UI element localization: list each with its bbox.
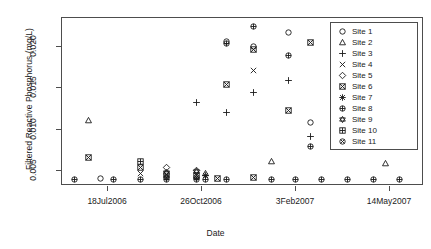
data-point [201, 175, 210, 184]
y-axis-tick-label: 0.010 [28, 110, 38, 148]
data-point [192, 173, 201, 182]
data-point [291, 175, 300, 184]
data-point [317, 175, 326, 184]
data-point [284, 106, 293, 115]
y-axis-tick-label: 0.005 [28, 151, 38, 189]
data-point [222, 175, 231, 184]
legend-label: Site 8 [349, 104, 372, 113]
data-point [84, 116, 93, 125]
x-axis-tick-label: 14May2007 [349, 196, 429, 206]
data-point [222, 80, 231, 89]
legend-item: Site 9 [331, 114, 417, 125]
legend-symbol [336, 92, 349, 103]
legend-symbol [336, 136, 349, 147]
x-axis-tick [295, 186, 296, 191]
data-point [249, 88, 258, 97]
y-axis-tick [56, 170, 61, 171]
x-axis-tick [389, 186, 390, 191]
data-point [249, 173, 258, 182]
data-point [306, 118, 315, 127]
data-point [369, 175, 378, 184]
data-point [249, 66, 258, 75]
data-point [136, 175, 145, 184]
legend-label: Site 1 [349, 27, 372, 36]
legend-symbol [336, 70, 349, 81]
legend-symbol [336, 48, 349, 59]
y-axis-tick-label-wrap: 0.020 [14, 41, 52, 51]
legend-item: Site 6 [331, 81, 417, 92]
plot-root: Filtered Reactive Phosphorus (mg/L) 0.00… [0, 0, 431, 249]
x-axis-tick [107, 186, 108, 191]
y-axis-tick-label-wrap: 0.015 [14, 82, 52, 92]
data-point [96, 174, 105, 183]
legend-label: Site 2 [349, 38, 372, 47]
data-point [381, 159, 390, 168]
y-axis-tick [56, 87, 61, 88]
legend-label: Site 6 [349, 82, 372, 91]
legend-item: Site 3 [331, 48, 417, 59]
y-axis-tick-label: 0.020 [28, 27, 38, 65]
data-point [109, 175, 118, 184]
legend-symbol [336, 114, 349, 125]
y-axis-tick [56, 46, 61, 47]
legend-label: Site 4 [349, 60, 372, 69]
legend-symbol [336, 81, 349, 92]
legend-symbol [336, 59, 349, 70]
legend: Site 1Site 2 Site 3 Site 4Site 5 Site 6 … [330, 22, 418, 150]
data-point [395, 175, 404, 184]
x-axis-title: Date [0, 228, 431, 238]
data-point [222, 39, 231, 48]
data-point [249, 22, 258, 31]
data-point [162, 173, 171, 182]
data-point [192, 98, 201, 107]
data-point [267, 157, 276, 166]
legend-symbol [336, 26, 349, 37]
x-axis-tick-label: 3Feb2007 [255, 196, 335, 206]
data-point [222, 108, 231, 117]
legend-item: Site 1 [331, 26, 417, 37]
data-point [343, 175, 352, 184]
legend-label: Site 5 [349, 71, 372, 80]
data-point [306, 38, 315, 47]
legend-label: Site 3 [349, 49, 372, 58]
y-axis-tick-label-wrap: 0.005 [14, 165, 52, 175]
legend-item: Site 5 [331, 70, 417, 81]
legend-label: Site 7 [349, 93, 372, 102]
data-point [70, 175, 79, 184]
data-point [213, 174, 222, 183]
y-axis-tick-label: 0.015 [28, 68, 38, 106]
legend-item: Site 8 [331, 103, 417, 114]
data-point [136, 157, 145, 166]
legend-item: Site 7 [331, 92, 417, 103]
legend-item: Site 4 [331, 59, 417, 70]
data-point [306, 132, 315, 141]
legend-symbol [336, 103, 349, 114]
x-axis-tick-label: 18Jul2006 [67, 196, 147, 206]
data-point [284, 51, 293, 60]
legend-label: Site 10 [349, 126, 377, 135]
legend-symbol [336, 37, 349, 48]
data-point [84, 153, 93, 162]
legend-item: Site 11 [331, 136, 417, 147]
legend-item: Site 10 [331, 125, 417, 136]
data-point [249, 45, 258, 54]
legend-symbol [336, 125, 349, 136]
x-axis-tick-label: 26Oct2006 [161, 196, 241, 206]
data-point [306, 142, 315, 151]
data-point [284, 28, 293, 37]
data-point [284, 76, 293, 85]
x-axis-tick [201, 186, 202, 191]
legend-item: Site 2 [331, 37, 417, 48]
legend-label: Site 11 [349, 137, 376, 146]
y-axis-tick [56, 129, 61, 130]
data-point [267, 175, 276, 184]
legend-label: Site 9 [349, 115, 372, 124]
y-axis-tick-label-wrap: 0.010 [14, 124, 52, 134]
